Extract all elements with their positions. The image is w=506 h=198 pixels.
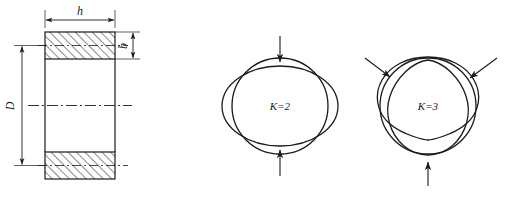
engineering-figure: h b D K=2	[0, 0, 506, 198]
k3-load-arrow-upper-left	[365, 58, 390, 77]
k3-lobe-outline-a	[377, 57, 478, 140]
k3-mode-label: K=3	[417, 100, 439, 112]
k3-load-arrow-upper-right	[470, 58, 497, 78]
ring-section-view: h b D	[3, 4, 140, 179]
deformation-mode-k2: K=2	[222, 36, 338, 176]
dimension-label-d: D	[3, 101, 17, 111]
figure-canvas: h b D K=2	[0, 0, 506, 198]
deformation-mode-k3: K=3	[365, 57, 497, 186]
k2-mode-label: K=2	[269, 100, 291, 112]
dimension-label-b: b	[116, 43, 130, 49]
dimension-label-h: h	[77, 4, 83, 18]
